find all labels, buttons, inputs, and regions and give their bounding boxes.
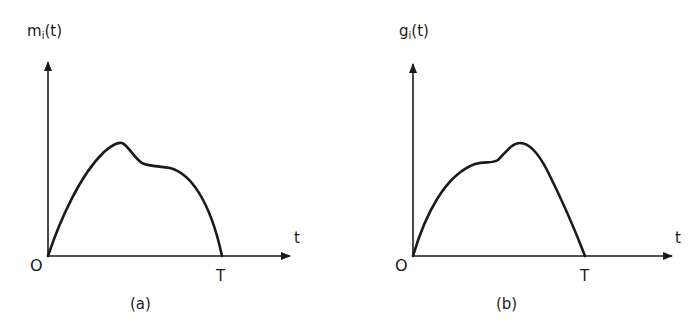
panel-b-x-axis-label: t — [675, 231, 681, 246]
panel-a-caption: (a) — [130, 297, 151, 312]
panel-b-ylabel-arg: (t) — [411, 22, 429, 40]
panel-b-y-axis-label: gi(t) — [399, 24, 429, 41]
figure-canvas — [0, 0, 695, 327]
panel-a-end-label: T — [216, 269, 225, 284]
panel-a — [48, 62, 290, 257]
panel-b-end-label: T — [580, 269, 589, 284]
panel-b-curve-g-i — [413, 143, 585, 256]
figure: mi(t) t O T (a) gi(t) t O T (b) — [0, 0, 695, 327]
panel-a-origin-label: O — [30, 258, 43, 274]
panel-a-curve-m-i — [48, 143, 222, 256]
panel-a-ylabel-base: m — [27, 22, 42, 40]
panel-a-y-axis-label: mi(t) — [27, 24, 62, 41]
panel-b-ylabel-base: g — [399, 22, 409, 40]
panel-b — [413, 64, 672, 257]
panel-a-ylabel-arg: (t) — [44, 22, 62, 40]
panel-a-x-axis-label: t — [294, 231, 300, 246]
panel-b-origin-label: O — [395, 258, 408, 274]
panel-b-caption: (b) — [496, 297, 517, 312]
